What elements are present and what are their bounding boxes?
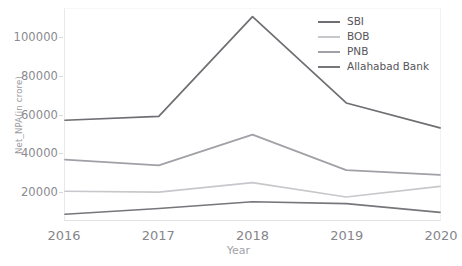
y-axis-title: Net_NPA(in crore)	[14, 75, 24, 153]
legend-color-swatch	[318, 36, 340, 38]
legend-item[interactable]: PNB	[318, 44, 442, 59]
legend-item-label: BOB	[347, 31, 370, 42]
x-axis-title: Year	[14, 244, 462, 257]
legend-item-label: PNB	[347, 46, 368, 57]
legend-color-swatch	[318, 21, 340, 23]
legend-item-label: Allahabad Bank	[347, 61, 429, 72]
y-axis-tick-mark	[59, 192, 63, 193]
x-axis-tick-label: 2020	[424, 228, 457, 243]
y-axis-tick-mark	[59, 115, 63, 116]
y-axis-tick-mark	[59, 153, 63, 154]
legend-item[interactable]: Allahabad Bank	[318, 59, 442, 74]
y-axis-tick-mark	[59, 76, 63, 77]
y-axis-tick-labels: 20000400006000080000100000	[0, 0, 58, 266]
legend-color-swatch	[318, 66, 340, 68]
chart-legend: SBIBOBPNBAllahabad Bank	[318, 12, 442, 76]
x-axis-tick-label: 2017	[142, 228, 175, 243]
series-line	[65, 202, 440, 214]
series-line	[65, 183, 440, 197]
series-line	[65, 135, 440, 175]
x-axis-tick-label: 2016	[47, 228, 80, 243]
legend-item[interactable]: BOB	[318, 29, 442, 44]
y-axis-title-wrapper: Net_NPA(in crore)	[10, 0, 28, 229]
y-axis-tick-mark	[59, 37, 63, 38]
x-axis-tick-label: 2018	[236, 228, 269, 243]
x-axis-tick-label: 2019	[330, 228, 363, 243]
legend-item[interactable]: SBI	[318, 14, 442, 29]
legend-color-swatch	[318, 51, 340, 53]
legend-item-label: SBI	[347, 16, 364, 27]
